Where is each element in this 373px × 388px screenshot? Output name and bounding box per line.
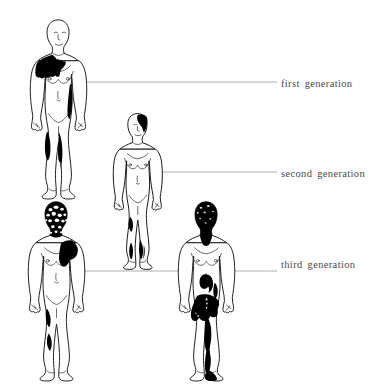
diagram-canvas: first generation second generation third… <box>0 0 373 388</box>
body-outline-second <box>113 114 162 270</box>
label-third-generation: third generation <box>281 259 355 270</box>
figure-third-generation-left <box>28 202 84 381</box>
body-outline-first <box>30 20 86 199</box>
figure-third-generation-right <box>178 202 234 381</box>
label-first-generation: first generation <box>281 78 352 89</box>
body-diagram-svg <box>0 0 373 388</box>
label-second-generation: second generation <box>281 168 365 179</box>
figure-first-generation <box>30 20 86 199</box>
leader-lines <box>64 82 277 271</box>
figure-second-generation <box>113 114 162 270</box>
